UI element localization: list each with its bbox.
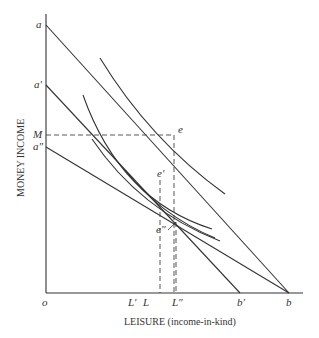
label-b-prime: b' <box>237 296 246 308</box>
label-e-double-prime: e" <box>156 223 166 235</box>
budget-line-a-double-prime-b <box>46 147 289 293</box>
label-origin: o <box>42 296 48 308</box>
budget-line-a-prime-b-prime <box>46 85 240 293</box>
label-b: b <box>286 296 292 308</box>
indifference-curve-e-prime <box>83 95 212 229</box>
label-e-prime: e' <box>157 167 165 179</box>
label-L-double-prime: L" <box>171 296 183 308</box>
leisure-income-diagram: a a' M a" e e' e" o L' L L" b' b LEISURE… <box>0 0 319 338</box>
label-M: M <box>32 128 43 140</box>
label-L-prime: L' <box>127 296 137 308</box>
label-a-double-prime: a" <box>33 140 44 152</box>
budget-line-ab <box>46 25 289 293</box>
x-axis-title: LEISURE (income-in-kind) <box>124 316 236 328</box>
label-L: L <box>142 296 149 308</box>
label-a: a <box>36 18 42 30</box>
y-axis-title: MONEY INCOME <box>15 119 26 197</box>
label-e: e <box>178 123 183 135</box>
label-a-prime: a' <box>34 78 43 90</box>
